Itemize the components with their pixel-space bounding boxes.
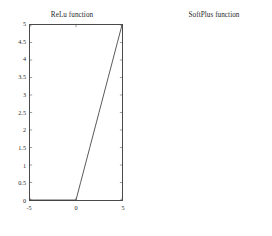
plot-area-relu	[30, 25, 122, 200]
figure-canvas: ReLu function 00.511.522.533.544.55 -505…	[0, 0, 272, 236]
y-tick-label: 2.5	[3, 109, 26, 115]
tick-marks-relu	[30, 25, 122, 200]
y-tick-label: 3	[3, 92, 26, 98]
chart-panel-softplus: SoftPlus function 0123456 -505	[136, 0, 272, 236]
plot-axes-relu	[29, 24, 123, 201]
y-tick-label: 0.5	[3, 180, 26, 186]
chart-title-relu: ReLu function	[4, 11, 140, 20]
y-tick-label: 2	[3, 127, 26, 133]
chart-panel-relu: ReLu function 00.511.522.533.544.55 -505	[0, 0, 136, 236]
x-tick-label: 5	[121, 205, 124, 211]
y-tick-label: 1	[3, 162, 26, 168]
y-tick-label: 3.5	[3, 74, 26, 80]
data-curve-relu	[30, 25, 122, 200]
x-tick-label: -5	[26, 205, 31, 211]
y-tick-label: 0	[3, 198, 26, 204]
y-tick-label: 5	[3, 21, 26, 27]
y-tick-label: 4	[3, 56, 26, 62]
chart-title-softplus: SoftPlus function	[146, 11, 272, 20]
y-tick-label: 4.5	[3, 39, 26, 45]
y-tick-label: 1.5	[3, 145, 26, 151]
x-tick-label: 0	[74, 205, 77, 211]
